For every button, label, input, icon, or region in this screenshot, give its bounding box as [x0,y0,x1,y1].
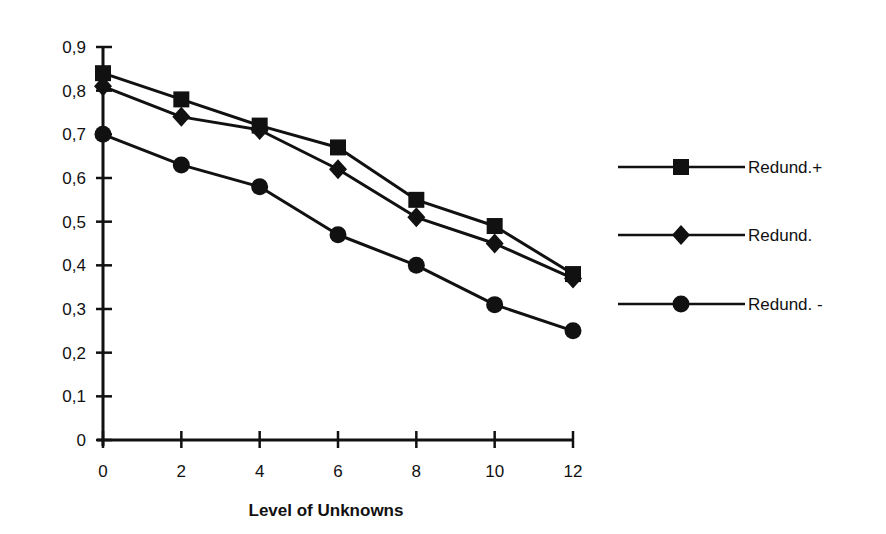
y-tick-label: 0,9 [62,38,86,57]
legend-item: Redund. [618,225,812,245]
x-tick-label: 0 [98,462,107,481]
circle-marker-icon [565,322,582,339]
x-axis-title: Level of Unknowns [249,501,404,520]
circle-marker-icon [486,296,503,313]
circle-marker-icon [408,257,425,274]
legend-circle-icon [673,296,690,313]
square-marker-icon [487,218,503,234]
x-tick-label: 4 [255,462,264,481]
y-tick-label: 0,6 [62,169,86,188]
y-tick-label: 0,7 [62,125,86,144]
y-tick-label: 0,1 [62,387,86,406]
series-diamond [94,76,582,288]
legend-item: Redund. - [618,295,823,314]
legend-item: Redund.+ [618,158,822,177]
line-chart: 00,10,20,30,40,50,60,70,80,9024681012 Re… [0,0,886,534]
x-tick-label: 6 [333,462,342,481]
diamond-marker-icon [329,159,347,179]
axes: 00,10,20,30,40,50,60,70,80,9024681012 [62,38,582,481]
square-marker-icon [408,192,424,208]
y-tick-label: 0,2 [62,344,86,363]
legend-label: Redund.+ [748,158,822,177]
legend-diamond-icon [672,225,690,245]
diamond-marker-icon [172,107,190,127]
square-marker-icon [330,139,346,155]
square-marker-icon [173,91,189,107]
circle-marker-icon [95,126,112,143]
circle-marker-icon [173,156,190,173]
circle-marker-icon [330,226,347,243]
x-tick-label: 10 [485,462,504,481]
y-tick-label: 0 [77,431,86,450]
diamond-marker-icon [407,207,425,227]
legend-label: Redund. [748,226,812,245]
y-tick-label: 0,5 [62,213,86,232]
series-circle [95,126,582,340]
circle-marker-icon [251,178,268,195]
series-group [94,65,582,339]
x-tick-label: 2 [177,462,186,481]
y-tick-label: 0,4 [62,256,86,275]
x-tick-label: 8 [412,462,421,481]
legend: Redund.+Redund.Redund. - [618,158,823,314]
legend-square-icon [673,159,689,175]
y-tick-label: 0,8 [62,82,86,101]
diamond-marker-icon [486,234,504,254]
y-tick-label: 0,3 [62,300,86,319]
legend-label: Redund. - [748,295,823,314]
x-tick-label: 12 [564,462,583,481]
series-line [103,86,573,278]
